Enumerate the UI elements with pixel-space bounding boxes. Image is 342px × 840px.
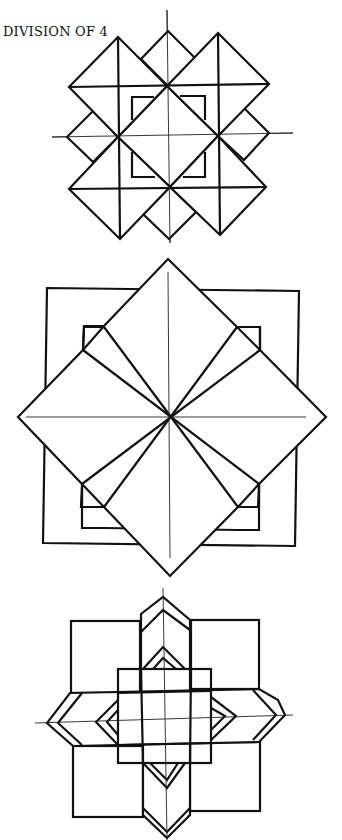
overlapping-diamonds-figure: [52, 10, 293, 243]
rotated-square-star-figure: [18, 259, 326, 576]
division-of-4-diagram: [0, 0, 342, 840]
eight-point-star-figure: [35, 588, 293, 840]
